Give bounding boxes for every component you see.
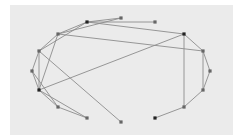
graph-edge (58, 107, 87, 118)
graph-node (208, 69, 211, 72)
graph-edge (39, 90, 58, 107)
graph-edge (58, 18, 121, 34)
graph-node (153, 20, 156, 23)
graph-edge (39, 90, 87, 118)
graph-node (153, 116, 156, 119)
graph-edge (32, 71, 39, 90)
graph-node (30, 69, 33, 72)
graph-edge (87, 22, 184, 34)
graph-node (56, 32, 59, 35)
graph-edge (39, 34, 184, 90)
graph-edge (39, 51, 121, 122)
graph-edge (58, 34, 203, 51)
graph-node (201, 88, 204, 91)
graph-node (182, 105, 185, 108)
graph-node (37, 88, 40, 91)
graph-edge (184, 34, 203, 51)
graph-node (119, 16, 122, 19)
graph-node (37, 49, 40, 52)
graph-edge (32, 51, 39, 71)
network-graph (0, 0, 246, 140)
graph-node (182, 32, 185, 35)
graph-edge (155, 107, 184, 118)
graph-edge (87, 18, 121, 22)
graph-node (119, 120, 122, 123)
graph-node (56, 105, 59, 108)
graph-edge (184, 90, 203, 107)
graph-node (85, 116, 88, 119)
graph-edge (203, 71, 210, 90)
graph-node (201, 49, 204, 52)
graph-node (85, 20, 88, 23)
graph-edge (32, 71, 58, 107)
graph-edge (203, 51, 210, 71)
